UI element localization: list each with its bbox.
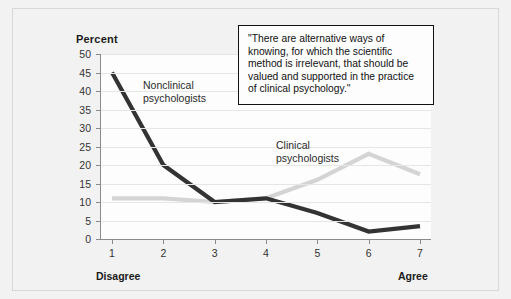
x-axis-label: 1 [99, 247, 125, 259]
x-axis-label: 2 [150, 247, 176, 259]
y-axis-label: 30 [65, 123, 91, 133]
gridline [101, 184, 431, 185]
y-axis-label: 25 [65, 142, 91, 152]
x-axis-tick [420, 239, 421, 244]
y-axis-tick [96, 110, 101, 111]
y-axis-label: 5 [65, 216, 91, 226]
x-axis-tick [317, 239, 318, 244]
series-label-nonclinical: Nonclinical psychologists [143, 79, 206, 104]
series-line-clinical [112, 154, 420, 202]
gridline [101, 221, 431, 222]
gridline [101, 128, 431, 129]
x-axis-label: 4 [253, 247, 279, 259]
y-axis-label: 50 [65, 49, 91, 59]
x-axis-label: 6 [356, 247, 382, 259]
y-axis-tick [96, 221, 101, 222]
gridline [101, 110, 431, 111]
y-axis-label: 10 [65, 197, 91, 207]
y-axis-label: 45 [65, 68, 91, 78]
x-axis-label: 7 [407, 247, 433, 259]
y-axis-tick [96, 147, 101, 148]
y-axis-label: 0 [65, 234, 91, 244]
gridline [101, 165, 431, 166]
chart-canvas: Percent 1234567 50454035302520151050 Non… [0, 0, 511, 299]
y-axis-tick [96, 54, 101, 55]
y-axis-tick [96, 73, 101, 74]
y-axis-label: 15 [65, 179, 91, 189]
quote-annotation-box: "There are alternative ways of knowing, … [238, 25, 434, 105]
y-axis-tick [96, 202, 101, 203]
x-axis-tick [163, 239, 164, 244]
x-axis-tick [112, 239, 113, 244]
y-axis-label: 20 [65, 160, 91, 170]
y-axis-title: Percent [76, 33, 118, 45]
series-label-clinical: Clinical psychologists [276, 139, 339, 164]
y-axis-tick [96, 165, 101, 166]
x-anchor-agree: Agree [398, 270, 428, 282]
y-axis-label: 35 [65, 105, 91, 115]
gridline [101, 147, 431, 148]
x-axis-tick [215, 239, 216, 244]
x-axis-tick [266, 239, 267, 244]
x-axis-label: 3 [202, 247, 228, 259]
x-axis-label: 5 [304, 247, 330, 259]
x-axis-tick [369, 239, 370, 244]
y-axis-tick [96, 239, 101, 240]
y-axis-tick [96, 91, 101, 92]
x-anchor-disagree: Disagree [96, 270, 140, 282]
gridline [101, 202, 431, 203]
y-axis-tick [96, 128, 101, 129]
y-axis-tick [96, 184, 101, 185]
y-axis-label: 40 [65, 86, 91, 96]
